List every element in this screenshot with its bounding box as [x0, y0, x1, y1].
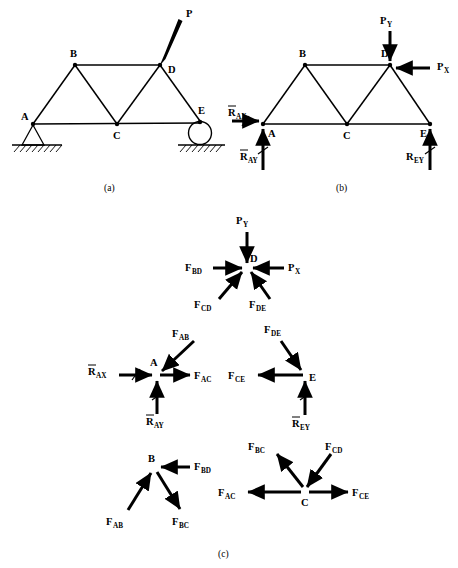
joint-dot-b-E [428, 122, 432, 126]
node-label-a-D: D [168, 64, 176, 75]
load-arrow-P [160, 19, 183, 66]
svg-text:CE: CE [359, 493, 369, 501]
svg-text:P: P [236, 215, 243, 226]
svg-text:AY: AY [248, 157, 259, 165]
panel-c: D P Y P X F BD F CD F DE [88, 215, 369, 560]
caption-b: (b) [336, 183, 347, 194]
svg-text:Y: Y [387, 21, 393, 29]
force-label-PY-D: P Y [236, 215, 249, 229]
force-arrow-FCD-D [219, 272, 242, 299]
force-label-FAB-A: F AB [172, 328, 189, 342]
svg-text:X: X [444, 67, 450, 75]
panel-b: A B C D E P Y P X R AX R AY R EY (b) [228, 15, 450, 194]
force-label-FDE-E: F DE [264, 324, 281, 338]
roller-support-ground-a [178, 145, 225, 152]
svg-text:CD: CD [332, 447, 342, 455]
joint-label-D-c: D [250, 253, 258, 264]
force-arrow-FDE-E [281, 341, 301, 370]
node-label-b-E: E [420, 128, 427, 139]
svg-text:AX: AX [236, 113, 247, 121]
svg-text:F: F [194, 299, 200, 310]
force-label-FCE-C: F CE [352, 487, 369, 501]
node-label-a-E: E [198, 105, 205, 116]
svg-text:F: F [172, 328, 178, 339]
force-label-RAY-A: R AY [146, 415, 165, 430]
joint-label-A-c: A [150, 357, 158, 368]
svg-text:P: P [437, 61, 444, 72]
joint-fbd-C: C F BC F CD F AC F CE [218, 441, 369, 508]
svg-text:R: R [146, 416, 154, 427]
force-label-PX-D: P X [288, 262, 301, 276]
force-arrow-FBC-B [157, 472, 180, 509]
force-label-FAC-A: F AC [194, 370, 211, 384]
svg-text:F: F [248, 441, 254, 452]
svg-text:F: F [264, 324, 270, 335]
svg-text:BD: BD [192, 268, 202, 276]
svg-text:F: F [106, 516, 112, 527]
node-label-a-C: C [113, 130, 121, 141]
svg-text:P: P [288, 262, 295, 273]
svg-text:BC: BC [179, 522, 189, 530]
caption-c: (c) [218, 549, 229, 560]
force-arrow-FAB-B [128, 473, 151, 510]
node-label-b-D: D [381, 48, 389, 59]
joint-dot-a-C [115, 122, 119, 126]
force-label-RAY-b: R AY [240, 150, 259, 165]
node-label-a-B: B [70, 48, 77, 59]
joint-dot-a-B [73, 63, 77, 67]
force-label-PX-b: P X [437, 61, 450, 75]
svg-text:CD: CD [201, 305, 211, 313]
force-arrow-FDE-D [251, 272, 270, 299]
svg-text:R: R [292, 418, 300, 429]
svg-text:DE: DE [271, 330, 281, 338]
force-arrow-FBC-C [277, 454, 303, 487]
svg-text:R: R [406, 151, 414, 162]
pin-support-ground-a [12, 145, 62, 152]
joint-fbd-B: B F BD F AB F BC [106, 453, 211, 530]
svg-text:BD: BD [201, 467, 211, 475]
force-label-FBC-B: F BC [172, 516, 189, 530]
force-label-FBD-B: F BD [194, 461, 211, 475]
svg-text:F: F [194, 461, 200, 472]
force-label-REY-b: R EY [406, 151, 425, 165]
joint-label-C-c: C [301, 497, 309, 508]
node-label-b-A: A [268, 128, 276, 139]
force-arrow-FCD-C [307, 454, 331, 487]
force-label-REY-E: R EY [292, 417, 311, 432]
svg-text:AY: AY [154, 422, 165, 430]
svg-text:F: F [185, 262, 191, 273]
svg-text:AX: AX [96, 372, 107, 380]
svg-text:R: R [228, 107, 236, 118]
svg-text:AB: AB [179, 334, 189, 342]
svg-text:F: F [194, 370, 200, 381]
force-label-FBD-D: F BD [185, 262, 202, 276]
truss-figure: A B C D E P (a) [0, 0, 458, 568]
joint-dot-b-C [345, 122, 349, 126]
joint-fbd-A: A R AX R AY F AB F AC [88, 328, 211, 430]
svg-text:EY: EY [300, 424, 311, 432]
svg-text:F: F [172, 516, 178, 527]
svg-text:AB: AB [113, 522, 123, 530]
joint-dot-b-B [303, 63, 307, 67]
joint-dot-a-A [31, 122, 35, 126]
truss-members-b [263, 65, 430, 124]
svg-text:BC: BC [255, 447, 265, 455]
force-label-RAX-b: R AX [228, 106, 247, 121]
panel-a: A B C D E P (a) [12, 8, 225, 194]
svg-text:F: F [218, 487, 224, 498]
roller-support-circle-a [189, 122, 212, 145]
force-label-PY-b: P Y [380, 15, 393, 29]
svg-text:F: F [228, 370, 234, 381]
svg-text:CE: CE [235, 376, 245, 384]
svg-text:F: F [249, 299, 255, 310]
node-label-b-C: C [343, 130, 351, 141]
svg-text:F: F [352, 487, 358, 498]
svg-text:X: X [295, 268, 301, 276]
svg-text:DE: DE [256, 305, 266, 313]
figure-container: A B C D E P (a) [0, 0, 458, 568]
joint-label-B-c: B [148, 453, 155, 464]
force-label-FAC-C: F AC [218, 487, 235, 501]
svg-text:EY: EY [414, 157, 425, 165]
force-label-FDE-D: F DE [249, 299, 266, 313]
svg-text:AC: AC [201, 376, 211, 384]
